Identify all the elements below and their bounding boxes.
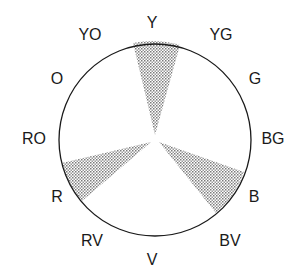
label-r: R	[51, 188, 63, 205]
label-bg: BG	[261, 130, 284, 147]
label-bv: BV	[219, 232, 241, 249]
wedge-red	[62, 142, 151, 201]
color-wheel-diagram: Y YG G BG B BV V RV R RO O YO	[0, 0, 293, 273]
wedge-blue	[159, 142, 244, 213]
label-b: B	[249, 188, 260, 205]
label-rv: RV	[81, 232, 103, 249]
label-yg: YG	[209, 26, 232, 43]
wedge-yellow	[133, 41, 180, 135]
label-o: O	[51, 70, 63, 87]
label-v: V	[147, 251, 158, 268]
label-y: Y	[147, 14, 158, 31]
label-g: G	[249, 70, 261, 87]
label-yo: YO	[78, 26, 101, 43]
label-ro: RO	[22, 130, 46, 147]
